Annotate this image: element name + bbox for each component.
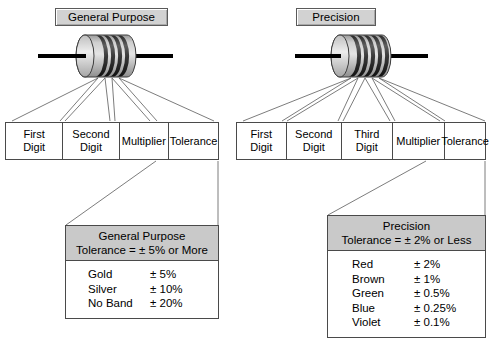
tolerance-row: Green ± 0.5% [328, 286, 485, 301]
tolerance-color-name: Brown [328, 272, 414, 287]
tolerance-row: Blue ± 0.25% [328, 301, 485, 316]
precision-bands [349, 36, 389, 77]
band-1 [96, 36, 108, 77]
precision-tolerance-box: Precision Tolerance = ± 2% or Less Red ±… [327, 215, 486, 338]
resistor-body [76, 35, 136, 77]
resistor-bands [96, 36, 129, 77]
band-4 [117, 36, 129, 77]
tolerance-value: ± 20% [150, 296, 183, 311]
tolerance-color-name: Green [328, 286, 414, 301]
resistor-lead-left [38, 54, 83, 58]
tolerance-color-name: Violet [328, 315, 414, 330]
precision-resistor [295, 35, 428, 77]
tolerance-row: Gold ± 5% [66, 267, 218, 282]
precision-lead-right [383, 54, 428, 58]
general-purpose-resistor [38, 35, 173, 77]
band-2 [103, 36, 115, 77]
general-purpose-tolerance-box: General Purpose Tolerance = ± 5% or More… [65, 225, 219, 319]
general-tolerance-header-line1: General Purpose [68, 229, 216, 243]
precision-title-chip: Precision [296, 8, 376, 26]
general-tolerance-header: General Purpose Tolerance = ± 5% or More [66, 226, 218, 261]
precision-band-cell-multiplier: Multiplier [393, 123, 446, 159]
band-5 [377, 36, 389, 77]
tolerance-color-name: Gold [66, 267, 150, 282]
tolerance-row: Silver ± 10% [66, 282, 218, 297]
figure-root: General Purpose Precision First Digit Se… [0, 0, 491, 343]
precision-funnel [328, 161, 485, 215]
tolerance-color-name: Blue [328, 301, 414, 316]
band-cell-second-digit: Second Digit [63, 123, 119, 159]
band-1 [349, 36, 361, 77]
general-tolerance-header-line2: Tolerance = ± 5% or More [68, 243, 216, 257]
resistor-lead-left-over [60, 54, 86, 58]
general-tolerance-rows: Gold ± 5% Silver ± 10% No Band ± 20% [66, 261, 218, 318]
precision-tolerance-header-line2: Tolerance = ± 2% or Less [330, 233, 483, 247]
precision-tolerance-header: Precision Tolerance = ± 2% or Less [328, 216, 485, 251]
precision-tolerance-header-line1: Precision [330, 219, 483, 233]
tolerance-row: No Band ± 20% [66, 296, 218, 311]
tolerance-color-name: No Band [66, 296, 150, 311]
tolerance-value: ± 1% [414, 272, 440, 287]
tolerance-value: ± 0.5% [414, 286, 450, 301]
band-cell-first-digit: First Digit [6, 123, 63, 159]
tolerance-value: ± 2% [414, 257, 440, 272]
precision-band-cell-first-digit: First Digit [237, 123, 287, 159]
tolerance-color-name: Red [328, 257, 414, 272]
precision-body [331, 35, 391, 77]
tolerance-value: ± 0.1% [414, 315, 450, 330]
precision-lead-left-over [315, 54, 341, 58]
general-leader-lines [12, 78, 214, 121]
precision-band-cell-second-digit: Second Digit [287, 123, 342, 159]
resistor-end-cap [76, 35, 94, 77]
band-3 [110, 36, 122, 77]
general-funnel [66, 161, 218, 225]
precision-leader-lines [243, 78, 485, 121]
precision-band-cell-third-digit: Third Digit [342, 123, 393, 159]
band-3 [363, 36, 375, 77]
band-cell-multiplier: Multiplier [120, 123, 169, 159]
tolerance-row: Brown ± 1% [328, 272, 485, 287]
tolerance-row: Violet ± 0.1% [328, 315, 485, 330]
band-4 [370, 36, 382, 77]
precision-band-table: First Digit Second Digit Third Digit Mul… [236, 122, 486, 160]
general-purpose-title-chip: General Purpose [55, 8, 168, 26]
precision-lead-left [295, 54, 340, 58]
precision-band-cell-tolerance: Tolerance [445, 123, 485, 159]
resistor-lead-right [128, 54, 173, 58]
band-cell-tolerance: Tolerance [169, 123, 218, 159]
precision-end-cap [331, 35, 349, 77]
tolerance-color-name: Silver [66, 282, 150, 297]
precision-tolerance-rows: Red ± 2% Brown ± 1% Green ± 0.5% Blue ± … [328, 251, 485, 337]
tolerance-value: ± 0.25% [414, 301, 456, 316]
general-purpose-band-table: First Digit Second Digit Multiplier Tole… [5, 122, 219, 160]
tolerance-value: ± 5% [150, 267, 176, 282]
band-2 [356, 36, 368, 77]
tolerance-row: Red ± 2% [328, 257, 485, 272]
tolerance-value: ± 10% [150, 282, 183, 297]
